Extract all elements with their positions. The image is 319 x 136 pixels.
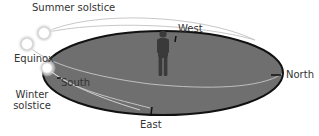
label-summer-solstice: Summer solstice xyxy=(32,2,115,13)
west-tick xyxy=(175,36,176,42)
label-winter-solstice: Winter solstice xyxy=(12,89,52,111)
sun-equinox xyxy=(17,34,37,54)
label-north: North xyxy=(286,69,314,80)
sun-path-diagram xyxy=(0,0,319,136)
label-west: West xyxy=(178,23,203,34)
label-south: South xyxy=(61,77,90,88)
label-east: East xyxy=(140,119,162,130)
label-winter-solstice-line1: Winter xyxy=(12,89,52,100)
sun-summer-solstice xyxy=(34,23,54,43)
label-winter-solstice-line2: solstice xyxy=(12,100,52,111)
east-tick xyxy=(151,107,152,114)
label-equinox: Equinox xyxy=(14,53,54,64)
